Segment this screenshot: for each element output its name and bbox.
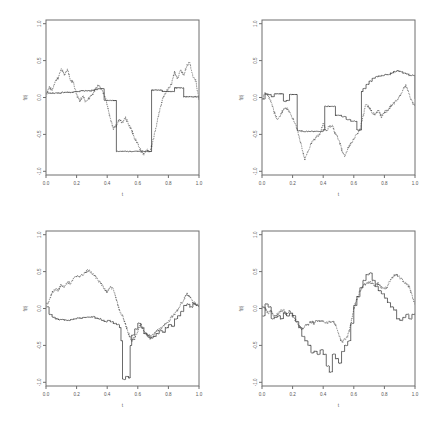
panel-bottom-right: 0.00.20.40.60.81.0-1.0-0.50.00.51.0tf(t) — [216, 211, 431, 422]
y-axis: -1.0-0.50.00.51.0 — [253, 20, 262, 175]
y-tick-label: -0.5 — [253, 130, 258, 138]
y-tick-label: -1.0 — [37, 378, 42, 386]
x-axis-title: t — [337, 192, 339, 197]
figure-canvas: 0.00.20.40.60.81.0-1.0-0.50.00.51.0tf(t)… — [0, 0, 431, 422]
y-axis: -1.0-0.50.00.51.0 — [253, 231, 262, 386]
x-tick-label: 0.6 — [135, 181, 142, 186]
y-tick-label: 1.0 — [37, 20, 42, 27]
x-tick-label: 1.0 — [196, 181, 203, 186]
x-tick-label: 0.2 — [73, 392, 80, 397]
series-line-observed — [46, 270, 199, 342]
x-tick-label: 0.0 — [258, 392, 265, 397]
y-tick-label: -1.0 — [253, 378, 258, 386]
x-tick-label: 0.4 — [320, 181, 327, 186]
series-line-observed — [262, 274, 415, 343]
plot-frame — [262, 20, 415, 175]
y-axis-title: f(t) — [23, 305, 28, 311]
x-tick-label: 0.8 — [381, 181, 388, 186]
series-line-observed — [46, 62, 199, 155]
panel-top-right: 0.00.20.40.60.81.0-1.0-0.50.00.51.0tf(t) — [216, 0, 431, 211]
y-tick-label: -1.0 — [253, 167, 258, 175]
series-layer — [262, 70, 415, 160]
plot-svg: 0.00.20.40.60.81.0-1.0-0.50.00.51.0tf(t) — [216, 0, 431, 211]
y-tick-label: 1.0 — [253, 231, 258, 238]
x-tick-label: 0.8 — [381, 392, 388, 397]
y-tick-label: 0.5 — [253, 268, 258, 275]
series-line-estimate — [262, 70, 415, 131]
y-axis-title: f(t) — [23, 94, 28, 100]
y-tick-label: 1.0 — [37, 231, 42, 238]
x-tick-label: 0.2 — [289, 181, 296, 186]
y-axis: -1.0-0.50.00.51.0 — [37, 20, 46, 175]
x-tick-label: 1.0 — [411, 181, 418, 186]
x-tick-label: 0.4 — [104, 181, 111, 186]
x-tick-label: 0.6 — [350, 392, 357, 397]
series-layer — [46, 62, 199, 155]
series-line-estimate — [46, 87, 199, 151]
panel-bottom-left: 0.00.20.40.60.81.0-1.0-0.50.00.51.0tf(t) — [0, 211, 215, 422]
x-axis: 0.00.20.40.60.81.0 — [258, 175, 418, 186]
x-tick-label: 1.0 — [411, 392, 418, 397]
panel-top-left: 0.00.20.40.60.81.0-1.0-0.50.00.51.0tf(t) — [0, 0, 215, 211]
y-tick-label: -0.5 — [253, 341, 258, 349]
y-tick-label: 1.0 — [253, 20, 258, 27]
x-axis: 0.00.20.40.60.81.0 — [43, 386, 203, 397]
x-tick-label: 0.6 — [350, 181, 357, 186]
series-line-estimate — [262, 273, 415, 373]
y-axis: -1.0-0.50.00.51.0 — [37, 231, 46, 386]
y-tick-label: 0.5 — [253, 57, 258, 64]
x-axis-title: t — [337, 403, 339, 408]
y-tick-label: -0.5 — [37, 130, 42, 138]
plot-frame — [46, 20, 199, 175]
y-tick-label: 0.5 — [37, 57, 42, 64]
plot-svg: 0.00.20.40.60.81.0-1.0-0.50.00.51.0tf(t) — [0, 211, 215, 422]
y-axis-title: f(t) — [239, 94, 244, 100]
x-axis: 0.00.20.40.60.81.0 — [43, 175, 203, 186]
x-tick-label: 0.4 — [320, 392, 327, 397]
x-tick-label: 0.8 — [165, 181, 172, 186]
plot-svg: 0.00.20.40.60.81.0-1.0-0.50.00.51.0tf(t) — [0, 0, 215, 211]
x-axis-title: t — [122, 403, 124, 408]
x-tick-label: 0.2 — [289, 392, 296, 397]
x-tick-label: 0.8 — [165, 392, 172, 397]
y-tick-label: 0.0 — [37, 94, 42, 101]
series-line-observed — [262, 84, 415, 160]
x-tick-label: 0.2 — [73, 181, 80, 186]
series-layer — [262, 273, 415, 373]
y-tick-label: -0.5 — [37, 341, 42, 349]
x-tick-label: 0.0 — [43, 392, 50, 397]
x-tick-label: 0.0 — [258, 181, 265, 186]
y-tick-label: 0.0 — [253, 94, 258, 101]
y-tick-label: 0.0 — [37, 305, 42, 312]
y-tick-label: 0.0 — [253, 305, 258, 312]
x-tick-label: 1.0 — [196, 392, 203, 397]
x-tick-label: 0.6 — [135, 392, 142, 397]
x-tick-label: 0.4 — [104, 392, 111, 397]
series-layer — [46, 270, 199, 380]
y-axis-title: f(t) — [239, 305, 244, 311]
x-tick-label: 0.0 — [43, 181, 50, 186]
x-axis: 0.00.20.40.60.81.0 — [258, 386, 418, 397]
y-tick-label: 0.5 — [37, 268, 42, 275]
plot-svg: 0.00.20.40.60.81.0-1.0-0.50.00.51.0tf(t) — [216, 211, 431, 422]
x-axis-title: t — [122, 192, 124, 197]
panel-grid: 0.00.20.40.60.81.0-1.0-0.50.00.51.0tf(t)… — [0, 0, 431, 422]
y-tick-label: -1.0 — [37, 167, 42, 175]
